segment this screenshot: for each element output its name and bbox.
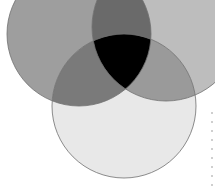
edge-dotted-marks	[211, 112, 213, 192]
venn-diagram	[0, 0, 215, 195]
